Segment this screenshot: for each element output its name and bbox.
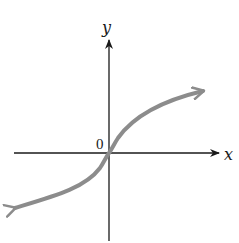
x-axis-label: x <box>224 145 233 164</box>
graph: y x 0 <box>0 0 239 243</box>
y-axis-label: y <box>101 18 112 37</box>
origin-label: 0 <box>96 136 104 152</box>
